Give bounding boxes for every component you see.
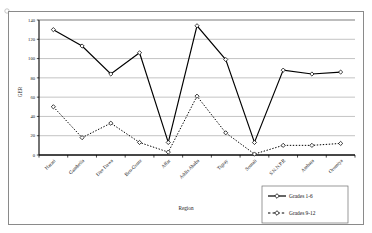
x-axis-category-labels: HarariGambellaDire DawaBen-GumzAffarAddi… [44, 158, 344, 180]
x-axis-title: Region [179, 205, 194, 211]
y-tick-label: 20 [30, 133, 35, 138]
data-point-marker [281, 143, 285, 147]
gridlines [39, 20, 355, 155]
x-category-label: Addis Ababa [178, 158, 200, 180]
data-point-marker [281, 68, 285, 72]
x-category-label: Gambella [68, 158, 86, 176]
x-category-label: Ben-Gumz [124, 158, 144, 178]
x-category-label: Dire Dawa [95, 158, 114, 177]
series-line-grades-1-6 [53, 26, 340, 143]
y-tick-label: 0 [33, 153, 36, 158]
y-tick-label: 100 [28, 56, 36, 61]
x-category-label: Amhara [300, 158, 315, 173]
y-axis-tick-labels: 020406080100120140 [28, 18, 39, 158]
line-chart-canvas: 020406080100120140 HarariGambellaDire Da… [0, 0, 372, 233]
x-category-label: Somali [244, 158, 258, 172]
data-point-marker [166, 140, 170, 144]
chart-figure: 020406080100120140 HarariGambellaDire Da… [0, 0, 372, 233]
legend-entry-label[interactable]: Grades 9-12 [289, 210, 316, 216]
x-category-label: Tigray [216, 158, 229, 171]
plot-area-border [39, 20, 355, 155]
y-tick-label: 120 [28, 37, 36, 42]
data-point-marker [339, 141, 343, 145]
legend-box [262, 186, 348, 223]
data-point-marker [51, 105, 55, 109]
data-series-group [51, 24, 342, 156]
y-tick-label: 60 [30, 95, 35, 100]
x-category-label: Affar [160, 158, 171, 169]
y-tick-label: 140 [28, 18, 36, 23]
data-point-marker [310, 72, 314, 76]
data-point-marker [252, 140, 256, 144]
x-category-label: Harari [44, 158, 57, 171]
data-point-marker [310, 143, 314, 147]
x-category-label: S.N.N.P.R [268, 158, 287, 177]
y-tick-label: 40 [30, 114, 35, 119]
data-point-marker [137, 140, 141, 144]
y-axis-title: GER [17, 86, 23, 97]
series-line-grades-9-12 [53, 96, 340, 154]
chart-legend[interactable]: Grades 1-6Grades 9-12 [262, 186, 348, 223]
y-tick-label: 80 [30, 76, 35, 81]
data-point-marker [339, 70, 343, 74]
legend-entry-label[interactable]: Grades 1-6 [289, 193, 313, 199]
data-point-marker [166, 150, 170, 154]
x-category-label: Oromiya [328, 158, 345, 175]
